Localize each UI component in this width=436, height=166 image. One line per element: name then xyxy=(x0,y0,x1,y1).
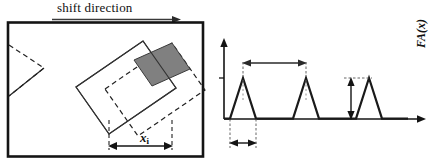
chart-svg xyxy=(212,0,436,166)
shift-direction-label: shift direction xyxy=(57,1,133,14)
chart-panel: FA(x) T 2Xmax S0 x xyxy=(212,0,436,166)
base-width-annotation xyxy=(229,119,257,148)
figure-container: shift direction xi xyxy=(0,0,436,166)
left-diagram-svg xyxy=(0,0,212,166)
period-annotation xyxy=(242,59,307,76)
xi-dimension-label: xi xyxy=(140,131,149,146)
waveform-triangular-series xyxy=(224,78,408,119)
rotated-rect-previous-position-left xyxy=(9,45,44,96)
left-diagram-panel: shift direction xi xyxy=(0,0,212,166)
xi-subscript: i xyxy=(147,136,150,146)
y-axis-label: FA(x) xyxy=(415,19,427,48)
